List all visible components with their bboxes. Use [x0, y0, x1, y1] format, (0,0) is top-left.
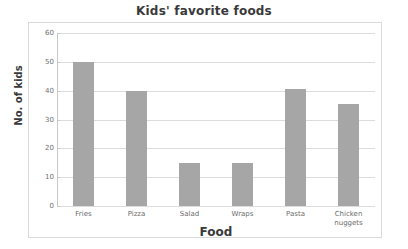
gridline: [57, 148, 375, 149]
y-axis-tick-mark: [57, 120, 60, 121]
y-axis-tick-label: 50: [28, 58, 54, 66]
gridline: [57, 177, 375, 178]
chart-title: Kids' favorite foods: [0, 4, 408, 18]
gridline: [57, 62, 375, 63]
y-axis-tick-label: 10: [28, 173, 54, 181]
gridline: [57, 206, 375, 207]
y-axis-tick-mark: [57, 206, 60, 207]
gridline: [57, 91, 375, 92]
x-axis-category-label: Pasta: [269, 210, 322, 219]
y-axis-tick-mark: [57, 62, 60, 63]
bar[interactable]: [126, 91, 147, 206]
y-axis-tick-label: 0: [28, 202, 54, 210]
y-axis-tick-label: 40: [28, 87, 54, 95]
bar[interactable]: [285, 89, 306, 206]
x-axis-category-label: Salad: [163, 210, 216, 219]
y-axis-ticks: 0102030405060: [28, 33, 54, 206]
y-axis-tick-mark: [57, 177, 60, 178]
bar[interactable]: [73, 62, 94, 206]
gridline: [57, 120, 375, 121]
y-axis-tick-mark: [57, 91, 60, 92]
bar[interactable]: [338, 104, 359, 206]
y-axis-tick-mark: [57, 33, 60, 34]
x-axis-category-label: Fries: [57, 210, 110, 219]
bar[interactable]: [179, 163, 200, 206]
x-axis-title: Food: [57, 225, 375, 239]
y-axis-tick-label: 30: [28, 116, 54, 124]
bar-chart: Kids' favorite foods 0102030405060 Fries…: [0, 0, 408, 249]
x-axis-category-label: Pizza: [110, 210, 163, 219]
y-axis-tick-mark: [57, 148, 60, 149]
gridline: [57, 33, 375, 34]
x-axis-category-label: Wraps: [216, 210, 269, 219]
bar[interactable]: [232, 163, 253, 206]
y-axis-tick-label: 20: [28, 144, 54, 152]
y-axis-title: No. of kids: [13, 56, 24, 136]
y-axis-tick-label: 60: [28, 29, 54, 37]
plot-area: [57, 33, 375, 206]
